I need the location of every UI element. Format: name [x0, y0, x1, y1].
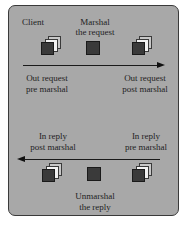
- arrow-right-icon: [157, 62, 165, 68]
- out-pre-label-2: pre marshal: [18, 84, 76, 94]
- in-pre-label-1: In reply: [117, 131, 175, 141]
- document-stack-icon: [131, 36, 153, 56]
- unmarshal-label-1: Unmarshal: [70, 191, 120, 201]
- out-post-label-2: post marshal: [114, 84, 176, 94]
- in-post-label-1: In reply: [24, 131, 82, 141]
- reply-arrow-line: [24, 159, 160, 160]
- out-post-label-1: Out request: [114, 73, 176, 83]
- out-pre-label-1: Out request: [18, 73, 76, 83]
- document-stack-icon: [41, 163, 63, 183]
- single-block-icon: [86, 41, 100, 55]
- document-stack-icon: [131, 163, 153, 183]
- in-pre-label-2: pre marshal: [117, 142, 175, 152]
- marshal-label-2: the request: [70, 27, 120, 37]
- document-stack-icon: [40, 36, 62, 56]
- unmarshal-label-2: the reply: [70, 202, 120, 212]
- single-block-icon: [87, 167, 101, 181]
- in-post-label-2: post marshal: [24, 142, 82, 152]
- request-arrow-line: [23, 65, 158, 66]
- marshal-label-1: Marshal: [76, 17, 114, 27]
- client-label: Client: [22, 17, 44, 27]
